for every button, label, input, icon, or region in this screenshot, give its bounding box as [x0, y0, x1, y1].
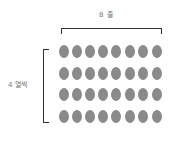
dot [59, 88, 69, 101]
dot [59, 67, 69, 80]
dot [111, 88, 121, 101]
dot [152, 110, 162, 123]
dot [98, 88, 108, 101]
dot [152, 67, 162, 80]
dot [98, 45, 108, 58]
dot [85, 110, 95, 123]
dot [152, 88, 162, 101]
dot [125, 67, 135, 80]
dot [111, 110, 121, 123]
dot [138, 45, 148, 58]
dot [85, 88, 95, 101]
dot [72, 67, 82, 80]
dot [85, 67, 95, 80]
dot [72, 88, 82, 101]
dot [85, 45, 95, 58]
dot [72, 45, 82, 58]
dot [59, 110, 69, 123]
dot [152, 45, 162, 58]
dot [138, 88, 148, 101]
dot [59, 45, 69, 58]
dot [111, 67, 121, 80]
dot [125, 110, 135, 123]
dot-grid [0, 0, 183, 144]
dot [98, 67, 108, 80]
dot [111, 45, 121, 58]
dot [98, 110, 108, 123]
dot [138, 110, 148, 123]
dot [72, 110, 82, 123]
dot [125, 45, 135, 58]
dot [125, 88, 135, 101]
dot [138, 67, 148, 80]
